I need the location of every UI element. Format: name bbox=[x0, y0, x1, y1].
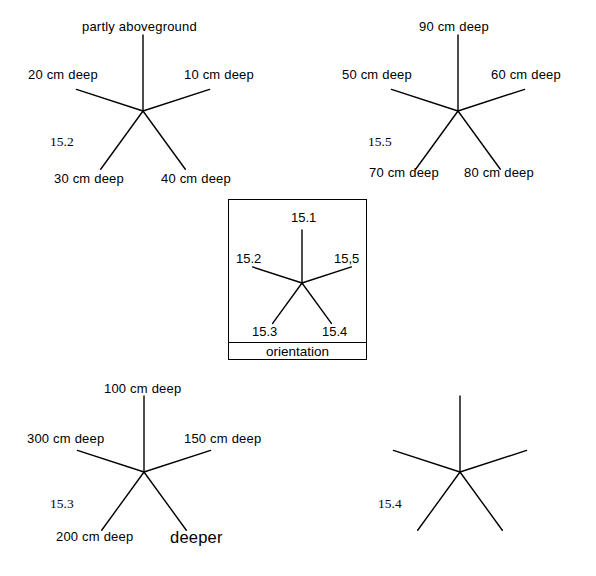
fig-15-4-ray-upper-left bbox=[393, 450, 460, 472]
fig-15-3-label-lower-left: 200 cm deep bbox=[56, 530, 133, 544]
fig-15-3-label-lower-right: deeper bbox=[170, 528, 223, 546]
fig-15-3-ray-lower-right bbox=[144, 472, 186, 530]
fig-15-3-ray-upper-left bbox=[77, 450, 144, 472]
fig-15-4-number: 15.4 bbox=[378, 496, 402, 511]
fig-15-5-label-lower-left: 70 cm deep bbox=[369, 166, 439, 180]
fig-15-2-label-lower-right: 40 cm deep bbox=[161, 172, 231, 186]
fig-15-5-ray-upper-left bbox=[391, 89, 458, 111]
fig-15-2-ray-upper-left bbox=[76, 89, 143, 111]
fig-15-2-label-left: 20 cm deep bbox=[28, 68, 98, 82]
fig-15-5-label-right: 60 cm deep bbox=[491, 68, 561, 82]
fig-15-5-label-lower-right: 80 cm deep bbox=[464, 166, 534, 180]
fig-15-5-label-top: 90 cm deep bbox=[419, 20, 489, 34]
legend-label-upper-right: 15,5 bbox=[334, 252, 359, 266]
fig-15-2-label-right: 10 cm deep bbox=[184, 68, 254, 82]
legend-label-top: 15.1 bbox=[291, 211, 316, 225]
fig-15-5-label-left: 50 cm deep bbox=[342, 68, 412, 82]
fig-15-3-ray-lower-left bbox=[102, 472, 144, 530]
fig-15-2-label-top: partly aboveground bbox=[82, 20, 197, 34]
fig-15-3-label-left: 300 cm deep bbox=[27, 432, 104, 446]
diagram-canvas: partly aboveground10 cm deep20 cm deep30… bbox=[0, 0, 596, 576]
fig-15-5-number: 15.5 bbox=[368, 134, 392, 149]
fig-15-3-number: 15.3 bbox=[50, 496, 74, 511]
fig-15-5-ray-lower-left bbox=[416, 111, 458, 169]
fig-15-2-number: 15.2 bbox=[50, 134, 74, 149]
fig-15-2-label-lower-left: 30 cm deep bbox=[54, 172, 124, 186]
fig-15-4-ray-upper-right bbox=[460, 450, 527, 472]
fig-15-4-ray-lower-left bbox=[418, 472, 460, 530]
fig-15-2-ray-lower-right bbox=[143, 111, 185, 169]
legend-label-upper-left: 15.2 bbox=[236, 252, 261, 266]
legend-caption: orientation bbox=[228, 344, 367, 359]
legend-divider bbox=[228, 342, 367, 343]
fig-15-3-label-top: 100 cm deep bbox=[104, 382, 181, 396]
fig-15-3-label-right: 150 cm deep bbox=[184, 432, 261, 446]
fig-15-2-ray-upper-right bbox=[143, 89, 210, 111]
legend-label-lower-right: 15.4 bbox=[322, 325, 347, 339]
fig-15-5-ray-upper-right bbox=[458, 89, 525, 111]
fig-15-5-ray-lower-right bbox=[458, 111, 500, 169]
fig-15-2-ray-lower-left bbox=[101, 111, 143, 169]
fig-15-3-ray-upper-right bbox=[144, 450, 211, 472]
legend-label-lower-left: 15.3 bbox=[252, 325, 277, 339]
fig-15-4-ray-lower-right bbox=[460, 472, 502, 530]
